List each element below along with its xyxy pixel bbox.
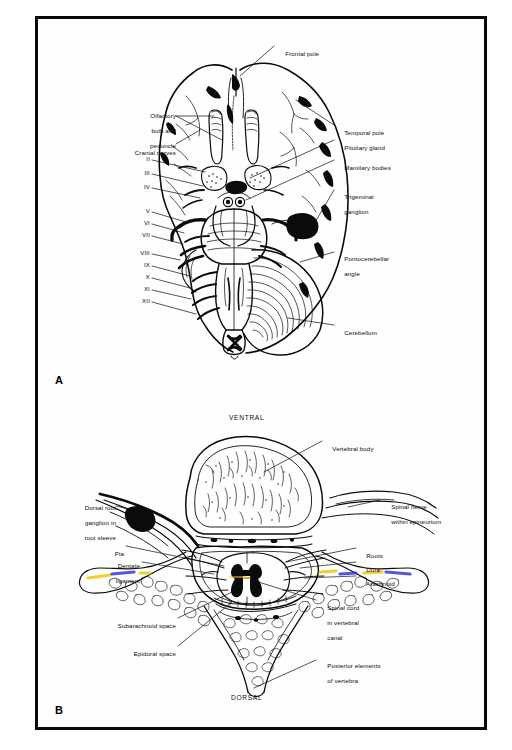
cranial-nerve-ix: IX — [126, 262, 150, 269]
orientation-dorsal: DORSAL — [231, 694, 262, 701]
cranial-nerve-v: V — [126, 208, 150, 215]
label-frontal-pole: Frontal pole — [278, 42, 319, 65]
panel-letter-b: B — [55, 704, 63, 716]
figure-root: Olfactory bulb and peduncle Cranial nerv… — [0, 0, 512, 750]
cranial-nerve-vi: VI — [126, 220, 150, 227]
label-vertebral-body: Vertebral body — [325, 437, 374, 460]
cranial-nerve-x: X — [126, 274, 150, 281]
label-mamilary-bodies: Mamilary bodies — [337, 156, 391, 179]
label-posterior-elements-of-vertebra: Posterior elements of vertebra — [320, 654, 381, 692]
cranial-nerve-xi: XI — [126, 286, 150, 293]
label-subarachnoid-space: Subarachnoid space — [68, 614, 176, 637]
cranial-nerve-viii: VIII — [126, 250, 150, 257]
label-cerebellum: Cerebellum — [337, 321, 377, 344]
panel-letter-a: A — [55, 374, 63, 386]
label-pontocerebellar-angle: Pontocerebellar angle — [337, 247, 389, 285]
label-epidural-space: Epidural space — [88, 642, 176, 665]
cranial-nerve-xii: XII — [126, 298, 150, 305]
cranial-nerve-iii: III — [126, 170, 150, 177]
orientation-ventral: VENTRAL — [229, 414, 264, 421]
label-spinal-cord-in-vertebral-canal: Spinal cord in vertebral canal — [320, 596, 359, 649]
label-spinal-nerve-within-epineurium: Spinal nerve within epineurium — [384, 495, 441, 533]
cranial-nerve-ii: II — [126, 156, 150, 163]
label-dentate-ligament: Dentate ligament — [88, 554, 140, 592]
cranial-nerve-vii: VII — [126, 232, 150, 239]
label-arachnoid: Arachnoid — [359, 572, 395, 595]
cranial-nerve-iv: IV — [126, 184, 150, 191]
label-trigeminal-ganglion: Trigeminal ganglion — [337, 185, 374, 223]
